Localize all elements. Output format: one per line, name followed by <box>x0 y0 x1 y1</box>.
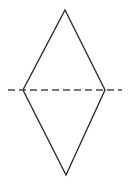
figure-background <box>0 0 130 185</box>
geometry-figure <box>0 0 130 185</box>
rhombus-diagram-svg <box>0 0 130 185</box>
